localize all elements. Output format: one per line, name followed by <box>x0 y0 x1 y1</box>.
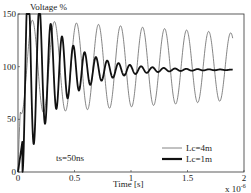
legend-label-lc4m: Lc=4m <box>186 143 212 153</box>
y-tick-label: 150 <box>3 9 17 19</box>
voltage-chart: 00.511.52050100150 Voltage % Time [s] x … <box>0 0 251 193</box>
x-tick-label: 1.5 <box>182 173 194 183</box>
x-tick-label: 2 <box>242 173 247 183</box>
y-tick-label: 0 <box>12 167 17 177</box>
x-multiplier: x 10-6 <box>225 183 246 193</box>
y-axis-label: Voltage % <box>30 2 68 12</box>
x-tick-label: 0 <box>16 173 21 183</box>
y-tick-label: 50 <box>7 114 17 124</box>
legend-label-lc1m: Lc=1m <box>186 154 212 164</box>
y-tick-label: 100 <box>3 62 17 72</box>
annotation-ts: ts=50ns <box>56 153 85 163</box>
x-axis-label: Time [s] <box>113 179 143 189</box>
legend: Lc=4m Lc=1m <box>162 143 212 164</box>
x-tick-label: 0.5 <box>69 173 81 183</box>
